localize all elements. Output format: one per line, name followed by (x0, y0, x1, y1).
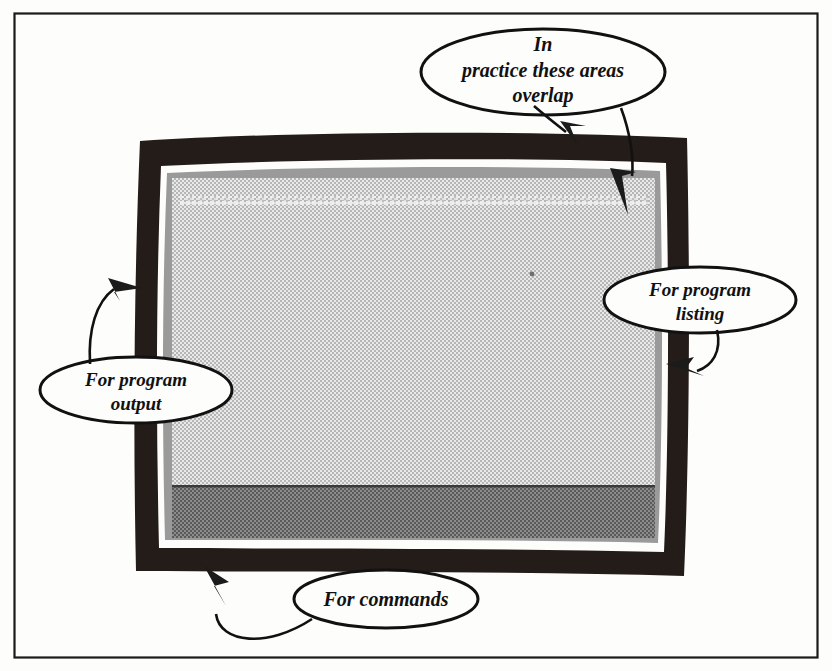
callout-program-listing-line-2: listing (676, 303, 725, 324)
callout-program-output-line-2: output (111, 393, 162, 414)
callout-overlap-line-2: practice these areas (460, 59, 624, 82)
callout-commands-leader (216, 614, 312, 639)
callout-commands-arrow (204, 566, 229, 606)
callout-commands-line-1: For commands (322, 588, 448, 610)
diagram-svg: In practice these areas overlap For prog… (0, 0, 832, 671)
monitor-screen (163, 167, 662, 543)
callout-program-listing-leader (697, 330, 718, 371)
callout-overlap-line-3: overlap (512, 84, 573, 107)
listing-text-row (180, 196, 648, 205)
screen-speck (530, 272, 535, 277)
screen-display-area (172, 178, 655, 487)
callout-overlap-line-1: In (533, 33, 553, 55)
callout-program-listing-line-1: For program (648, 279, 751, 300)
callout-program-output-line-1: For program (84, 369, 187, 390)
command-band (172, 487, 655, 538)
band-separator (172, 485, 655, 487)
callout-program-output-leader (90, 289, 114, 364)
callout-commands[interactable]: For commands (204, 566, 478, 639)
figure-canvas: In practice these areas overlap For prog… (0, 0, 832, 671)
